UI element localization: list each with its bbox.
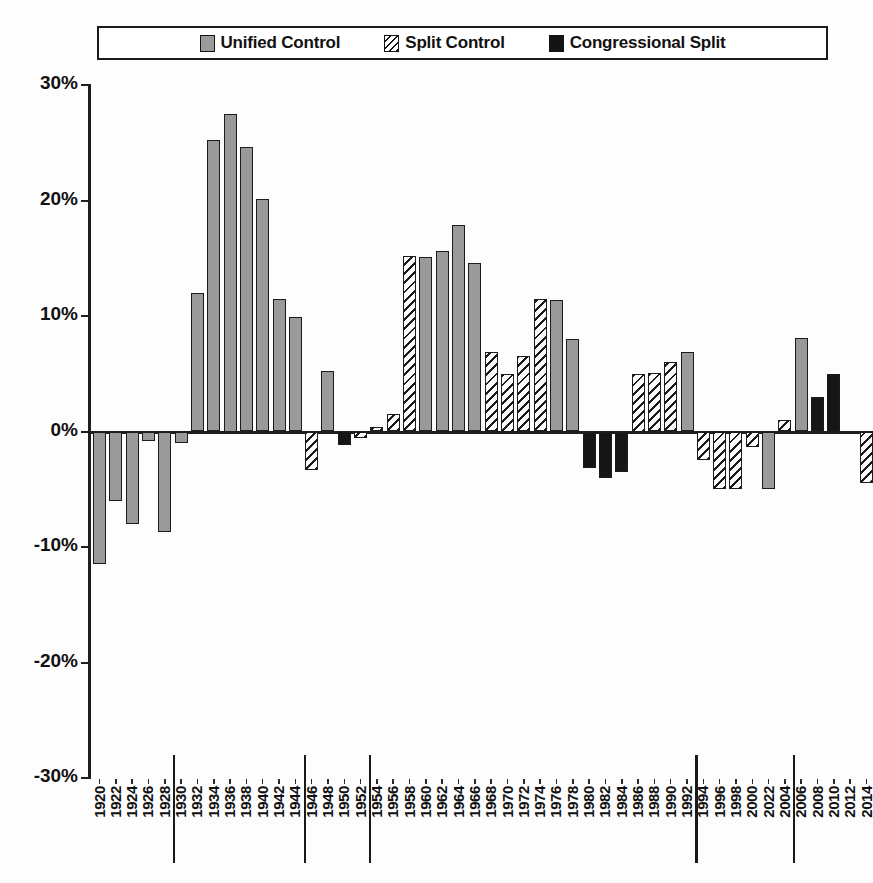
x-axis-label-2012: 2012 xyxy=(842,786,857,818)
legend-swatch-icon xyxy=(384,35,399,52)
bar-1970 xyxy=(501,374,514,432)
bar-1934 xyxy=(207,140,220,431)
x-axis-label-1928: 1928 xyxy=(157,786,172,818)
bar-1990 xyxy=(664,362,677,431)
x-axis-tick xyxy=(784,779,786,784)
era-separator-after-1952 xyxy=(369,755,371,863)
y-axis-tick-label: 20% xyxy=(8,188,78,210)
y-axis-tick-label: -30% xyxy=(8,765,78,787)
bar-1924 xyxy=(126,432,139,524)
x-axis-label-1990: 1990 xyxy=(663,786,678,818)
y-axis-tick xyxy=(81,84,90,86)
bar-1950 xyxy=(338,432,351,446)
x-axis-label-1954: 1954 xyxy=(369,786,384,818)
bar-1978 xyxy=(566,339,579,431)
x-axis-label-1980: 1980 xyxy=(581,786,596,818)
era-separator-after-1944 xyxy=(304,755,306,863)
bar-1956 xyxy=(387,414,400,431)
x-axis-tick xyxy=(131,779,133,784)
x-axis-label-1936: 1936 xyxy=(222,786,237,818)
x-axis-label-1994: 1994 xyxy=(695,786,710,818)
x-axis-tick xyxy=(735,779,737,784)
x-axis-tick xyxy=(572,779,574,784)
x-axis-label-2006: 2006 xyxy=(793,786,808,818)
bar-2008 xyxy=(811,397,824,432)
x-axis-tick xyxy=(752,779,754,784)
y-axis-tick xyxy=(81,431,90,433)
bar-1998 xyxy=(729,432,742,490)
legend-swatch-icon xyxy=(549,35,564,52)
figure-caption xyxy=(0,862,873,883)
x-axis-label-2010: 2010 xyxy=(826,786,841,818)
x-axis-label-1920: 1920 xyxy=(92,786,107,818)
x-axis-label-1940: 1940 xyxy=(255,786,270,818)
x-axis-tick xyxy=(719,779,721,784)
x-axis-label-1978: 1978 xyxy=(565,786,580,818)
x-axis-label-1930: 1930 xyxy=(173,786,188,818)
bar-1964 xyxy=(452,225,465,432)
x-axis-tick xyxy=(360,779,362,784)
x-axis-tick xyxy=(262,779,264,784)
x-axis-label-1944: 1944 xyxy=(287,786,302,818)
x-axis-label-1984: 1984 xyxy=(614,786,629,818)
x-axis-tick xyxy=(670,779,672,784)
x-axis-tick xyxy=(392,779,394,784)
x-axis-tick xyxy=(490,779,492,784)
x-axis-label-1956: 1956 xyxy=(385,786,400,818)
bar-1928 xyxy=(158,432,171,532)
x-axis-tick xyxy=(588,779,590,784)
x-axis-tick xyxy=(425,779,427,784)
x-axis-tick xyxy=(246,779,248,784)
bar-1960 xyxy=(419,257,432,431)
x-axis-label-1974: 1974 xyxy=(532,786,547,818)
bar-2010 xyxy=(827,374,840,432)
x-axis-tick xyxy=(164,779,166,784)
x-axis-label-1932: 1932 xyxy=(189,786,204,818)
bar-1986 xyxy=(632,374,645,432)
x-axis-tick xyxy=(376,779,378,784)
x-axis-label-1934: 1934 xyxy=(206,786,221,818)
legend-label: Unified Control xyxy=(221,33,341,53)
bar-1982 xyxy=(599,432,612,478)
x-axis-label-1948: 1948 xyxy=(320,786,335,818)
x-axis-tick xyxy=(866,779,868,784)
x-axis-tick xyxy=(703,779,705,784)
bar-1948 xyxy=(321,371,334,431)
x-axis-tick xyxy=(458,779,460,784)
x-axis-label-1952: 1952 xyxy=(353,786,368,818)
bar-2022 xyxy=(762,432,775,490)
bar-1944 xyxy=(289,317,302,431)
chart-legend: Unified ControlSplit ControlCongressiona… xyxy=(97,26,828,60)
bar-2000 xyxy=(746,432,759,447)
x-axis-label-1938: 1938 xyxy=(238,786,253,818)
bar-2004 xyxy=(778,420,791,432)
bar-1958 xyxy=(403,256,416,432)
x-axis-label-1966: 1966 xyxy=(467,786,482,818)
x-axis-label-1982: 1982 xyxy=(597,786,612,818)
x-axis-tick xyxy=(637,779,639,784)
legend-item-congressional-split: Congressional Split xyxy=(549,33,726,53)
x-axis-label-1942: 1942 xyxy=(271,786,286,818)
x-axis-tick xyxy=(327,779,329,784)
bar-1992 xyxy=(681,352,694,432)
bar-1942 xyxy=(273,299,286,432)
y-axis-tick-label: 10% xyxy=(8,303,78,325)
x-axis-label-1958: 1958 xyxy=(402,786,417,818)
bar-1936 xyxy=(224,114,237,432)
bar-1922 xyxy=(109,432,122,501)
x-axis-tick xyxy=(180,779,182,784)
x-axis-tick xyxy=(605,779,607,784)
y-axis-tick xyxy=(81,546,90,548)
x-axis-tick xyxy=(197,779,199,784)
bar-1932 xyxy=(191,293,204,432)
x-axis-label-1970: 1970 xyxy=(500,786,515,818)
bar-1988 xyxy=(648,373,661,432)
bar-2006 xyxy=(795,338,808,432)
x-axis-label-1964: 1964 xyxy=(451,786,466,818)
era-separator-after-1928 xyxy=(173,755,175,863)
x-axis-label-1950: 1950 xyxy=(336,786,351,818)
bar-1938 xyxy=(240,147,253,431)
bar-1976 xyxy=(550,300,563,432)
x-axis-tick xyxy=(99,779,101,784)
x-axis-tick xyxy=(295,779,297,784)
